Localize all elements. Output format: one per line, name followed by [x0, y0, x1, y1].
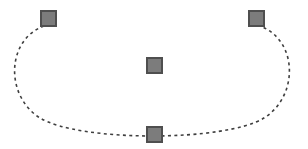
square-center[interactable]: [146, 57, 163, 74]
square-bottom-center[interactable]: [146, 126, 163, 143]
square-top-right[interactable]: [248, 10, 265, 27]
square-top-left[interactable]: [40, 10, 57, 27]
dashed-arc-path: [15, 26, 290, 136]
diagram-canvas: [0, 0, 308, 149]
